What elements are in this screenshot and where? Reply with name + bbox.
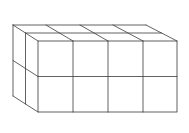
cube-prism-diagram: [0, 0, 189, 133]
left-face: [13, 25, 38, 112]
front-face: [38, 41, 177, 112]
top-face: [13, 25, 177, 41]
